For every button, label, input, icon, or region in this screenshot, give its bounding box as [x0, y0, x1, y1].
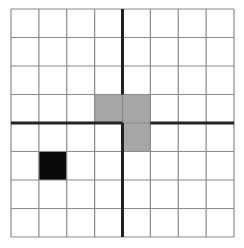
grid-cell	[178, 66, 206, 95]
grid-cell	[11, 152, 39, 181]
grid-cell	[150, 9, 178, 38]
grid-cell	[11, 209, 39, 238]
grid-cell	[95, 66, 123, 95]
gray-cell	[123, 123, 151, 152]
grid-cell	[95, 209, 123, 238]
grid-cell	[67, 95, 95, 124]
grid-cell	[39, 9, 67, 38]
grid-cell	[150, 38, 178, 67]
grid-cell	[206, 95, 234, 124]
grid-cell	[150, 180, 178, 209]
grid-cell	[178, 95, 206, 124]
grid-cell	[178, 180, 206, 209]
grid-cell	[206, 9, 234, 38]
grid-cell	[39, 95, 67, 124]
grid-cell	[67, 123, 95, 152]
grid-cell	[123, 9, 151, 38]
grid-cell	[95, 9, 123, 38]
grid-cell	[67, 66, 95, 95]
grid-cell	[150, 123, 178, 152]
grid-cell	[178, 123, 206, 152]
grid-cell	[123, 66, 151, 95]
grid-cell	[39, 180, 67, 209]
grid-cell	[67, 209, 95, 238]
grid-cell	[150, 95, 178, 124]
grid-cell	[11, 95, 39, 124]
grid-cell	[178, 152, 206, 181]
grid-cell	[206, 123, 234, 152]
grid-cell	[95, 38, 123, 67]
grid-cell	[39, 38, 67, 67]
grid-cell	[11, 123, 39, 152]
grid-cell	[39, 66, 67, 95]
black-cell	[39, 152, 67, 181]
grid-cell	[95, 123, 123, 152]
grid-cell	[67, 38, 95, 67]
grid-cell	[178, 209, 206, 238]
grid-cell	[123, 209, 151, 238]
grid-cell	[95, 180, 123, 209]
grid-cell	[206, 38, 234, 67]
grid-cell	[39, 123, 67, 152]
grid-cell	[39, 209, 67, 238]
grid-cell	[11, 9, 39, 38]
grid-cell	[123, 180, 151, 209]
grid-cell	[206, 209, 234, 238]
grid-cell	[11, 66, 39, 95]
grid-cell	[178, 38, 206, 67]
grid-cell	[67, 152, 95, 181]
grid-cell	[95, 152, 123, 181]
grid-cell	[67, 9, 95, 38]
grid-cell	[206, 66, 234, 95]
grid-cell	[178, 9, 206, 38]
grid-cell	[123, 38, 151, 67]
grid-cell	[150, 66, 178, 95]
gray-cell	[123, 95, 151, 124]
gray-cell	[95, 95, 123, 124]
grid-cell	[11, 38, 39, 67]
grid-cell	[67, 180, 95, 209]
grid-cell	[150, 152, 178, 181]
grid-cell	[11, 180, 39, 209]
grid-cell	[206, 180, 234, 209]
grid-cell	[206, 152, 234, 181]
grid-cell	[150, 209, 178, 238]
grid-board	[0, 0, 244, 248]
grid-cell	[123, 152, 151, 181]
